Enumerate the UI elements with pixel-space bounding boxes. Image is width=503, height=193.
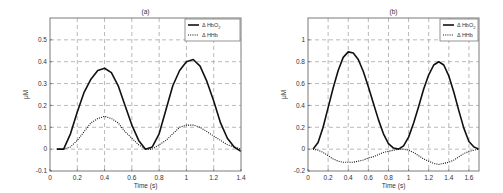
y-tick-label: 0: [43, 145, 47, 152]
y-tick-label: 0: [301, 145, 305, 152]
x-tick-label: 0: [48, 174, 52, 181]
legend-label-hhb-a: Δ HHb: [202, 32, 218, 38]
x-tick-label: 0.4: [100, 174, 109, 181]
figure-svg: 00.20.40.60.811.21.4-0.100.10.20.30.40.5…: [0, 0, 503, 193]
legend-a: Δ HbO2 Δ HHb: [185, 19, 240, 41]
y-tick-label: 0.1: [38, 124, 47, 131]
x-tick-label: 1.2: [209, 174, 218, 181]
y-tick-label: 0.3: [38, 80, 47, 87]
x-tick-label: 0.6: [127, 174, 136, 181]
chart-title-a: (a): [142, 8, 150, 16]
x-tick-label: 1.2: [424, 174, 433, 181]
x-tick-label: 0.4: [344, 174, 353, 181]
x-tick-label: 1.4: [236, 174, 245, 181]
x-axis-label-b: Time (s): [382, 182, 406, 190]
y-tick-label: 1: [301, 36, 305, 43]
y-tick-label: 0.2: [296, 124, 305, 131]
x-tick-label: 1.6: [464, 174, 473, 181]
x-tick-label: 1.4: [444, 174, 453, 181]
panel-a: 00.20.40.60.811.21.4-0.100.10.20.30.40.5…: [22, 8, 246, 190]
y-axis-label-a: μM: [22, 90, 30, 99]
legend-label-hhb-b: Δ HHb: [457, 32, 473, 38]
y-tick-label: 0.5: [38, 36, 47, 43]
x-tick-label: 0.8: [384, 174, 393, 181]
y-tick-label: -0.2: [294, 167, 306, 174]
x-tick-label: 1: [407, 174, 411, 181]
y-tick-label: 0.4: [38, 58, 47, 65]
x-tick-label: 0.6: [364, 174, 373, 181]
x-tick-label: 0: [306, 174, 310, 181]
x-tick-label: 1: [185, 174, 189, 181]
x-tick-label: 0.8: [155, 174, 164, 181]
y-tick-label: 0.4: [296, 102, 305, 109]
y-tick-label: 0.8: [296, 58, 305, 65]
figure: 00.20.40.60.811.21.4-0.100.10.20.30.40.5…: [0, 0, 503, 193]
legend-b: Δ HbO2 Δ HHb: [440, 19, 478, 41]
x-axis-label-a: Time (s): [134, 182, 158, 190]
x-tick-label: 0.2: [73, 174, 82, 181]
y-tick-label: -0.1: [36, 167, 48, 174]
x-tick-label: 0.2: [324, 174, 333, 181]
panel-b: 00.20.40.60.811.21.41.6-0.200.20.40.60.8…: [280, 8, 479, 190]
y-tick-label: 0.2: [38, 102, 47, 109]
chart-title-b: (b): [390, 8, 398, 16]
y-tick-label: 0.6: [296, 80, 305, 87]
y-axis-label-b: μM: [280, 90, 288, 99]
